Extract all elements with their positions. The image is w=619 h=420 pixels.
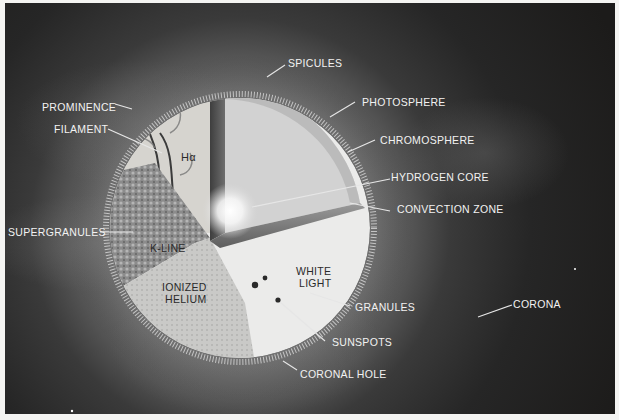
light-label: LIGHT	[299, 277, 331, 289]
sunspot	[275, 297, 280, 302]
callout-prominence: PROMINENCE	[42, 101, 116, 113]
k-line-label: K-LINE	[150, 242, 186, 254]
sun-structure-diagram: Hα K-LINE IONIZED HELIUM WHITE LIGHT SPI…	[5, 3, 615, 414]
callout-convection-zone: CONVECTION ZONE	[397, 203, 504, 215]
callout-spicules: SPICULES	[288, 57, 342, 69]
callout-photosphere: PHOTOSPHERE	[362, 96, 446, 108]
callout-coronal-hole: CORONAL HOLE	[300, 368, 387, 380]
callout-chromosphere: CHROMOSPHERE	[380, 134, 475, 146]
callout-hydrogen-core: HYDROGEN CORE	[391, 171, 489, 183]
sunspot	[263, 276, 268, 281]
callout-supergranules: SUPERGRANULES	[8, 226, 106, 238]
callout-corona: CORONA	[513, 298, 561, 310]
callout-filament: FILAMENT	[54, 123, 108, 135]
helium-label: HELIUM	[165, 293, 206, 305]
callout-granules: GRANULES	[355, 301, 415, 313]
h-alpha-label: Hα	[181, 151, 196, 163]
hydrogen-core	[202, 183, 258, 239]
sunspot	[252, 282, 258, 288]
white-label: WHITE	[296, 265, 331, 277]
ionized-label: IONIZED	[162, 281, 207, 293]
callout-sunspots: SUNSPOTS	[332, 336, 392, 348]
